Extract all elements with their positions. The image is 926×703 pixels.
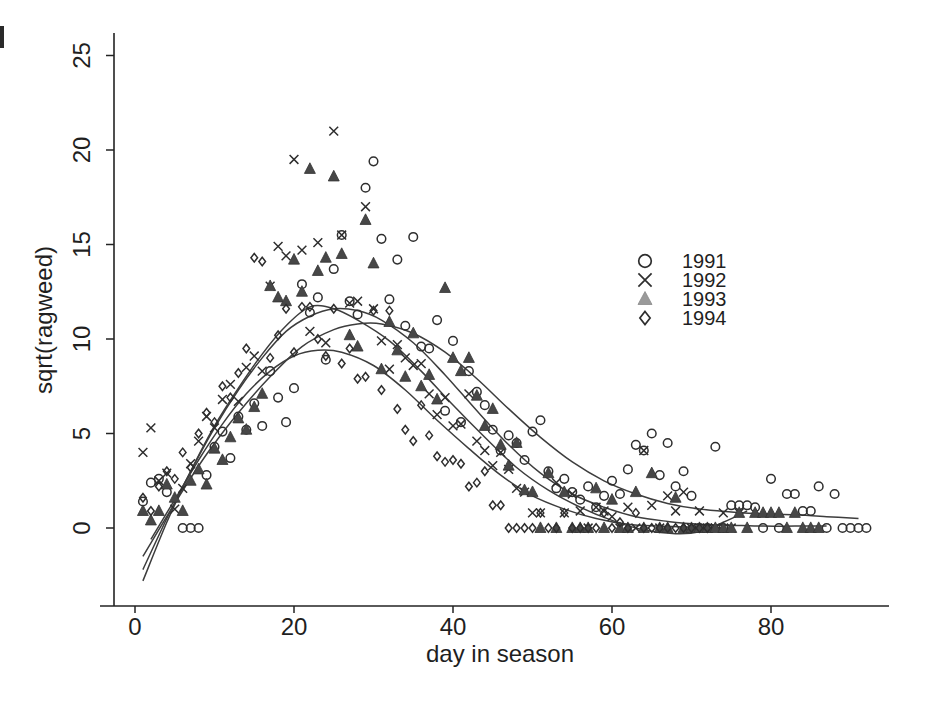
data-point-1994 [235, 369, 242, 378]
data-point-1994 [259, 257, 266, 266]
data-point-1991 [361, 184, 370, 193]
data-point-1993 [479, 420, 490, 431]
chart-canvas: 0204060800510152025day in seasonsqrt(rag… [0, 0, 926, 703]
data-point-1994 [251, 253, 258, 262]
data-point-1992 [313, 238, 322, 247]
data-point-1992 [639, 446, 648, 455]
data-point-1991 [282, 418, 291, 427]
data-point-1992 [321, 338, 330, 347]
data-point-1992 [147, 423, 156, 432]
data-point-1993 [352, 340, 363, 351]
data-point-1991 [528, 427, 537, 436]
data-point-1991 [671, 482, 680, 491]
data-point-1992 [329, 127, 338, 136]
data-point-1992 [679, 488, 688, 497]
data-point-1991 [369, 157, 378, 166]
data-point-1992 [306, 327, 315, 336]
data-point-1992 [250, 352, 259, 361]
y-tick-label: 10 [68, 326, 95, 353]
data-point-1994 [529, 524, 536, 533]
data-point-1991 [663, 439, 672, 448]
data-point-1992 [274, 242, 283, 251]
data-point-1992 [433, 410, 442, 419]
data-point-1994 [505, 524, 512, 533]
ragweed-scatter-figure: 0204060800510152025day in seasonsqrt(rag… [0, 0, 926, 703]
data-point-1992 [671, 507, 680, 516]
x-tick-label: 20 [281, 613, 308, 640]
data-point-1994 [410, 437, 417, 446]
data-point-1991 [425, 344, 434, 353]
data-point-1993 [400, 371, 411, 382]
data-point-1991 [814, 482, 823, 491]
y-tick-label: 25 [68, 42, 95, 69]
data-point-1994 [672, 524, 679, 533]
data-point-1992 [298, 246, 307, 255]
data-point-1991 [457, 418, 466, 427]
data-point-1994 [219, 382, 226, 391]
data-point-1993 [424, 369, 435, 380]
data-point-1991 [409, 233, 418, 242]
data-point-1994 [402, 425, 409, 434]
fit-curve-1992 [143, 306, 747, 581]
data-point-1994 [458, 459, 465, 468]
data-point-1993 [535, 522, 546, 533]
data-point-1991 [433, 316, 442, 325]
data-point-1994 [481, 467, 488, 476]
data-point-1993 [201, 478, 212, 489]
data-point-1994 [545, 524, 552, 533]
data-point-1993 [416, 380, 427, 391]
data-point-1992 [139, 448, 148, 457]
data-point-1992 [377, 336, 386, 345]
legend-open-diamond-icon [640, 311, 650, 324]
data-point-1994 [171, 475, 178, 484]
data-point-1991 [274, 393, 283, 402]
data-point-1991 [767, 475, 776, 484]
data-point-1994 [267, 354, 274, 363]
data-point-1992 [719, 508, 728, 517]
data-point-1994 [195, 429, 202, 438]
data-point-1994 [354, 374, 361, 383]
data-point-1991 [314, 293, 323, 302]
data-point-1993 [742, 522, 753, 533]
data-point-1993 [408, 327, 419, 338]
data-point-1992 [695, 507, 704, 516]
data-point-1992 [290, 155, 299, 164]
x-axis-title: day in season [426, 640, 574, 667]
data-point-1994 [466, 482, 473, 491]
data-point-1994 [386, 306, 393, 315]
data-point-1991 [560, 475, 569, 484]
data-point-1991 [258, 422, 267, 431]
legend-open-circle-icon [639, 255, 652, 268]
data-point-1991 [329, 265, 338, 274]
data-point-1994 [394, 405, 401, 414]
data-point-1991 [345, 297, 354, 306]
data-point-1991 [679, 467, 688, 476]
legend-filled-triangle-icon [638, 292, 652, 305]
data-point-1991 [624, 465, 633, 474]
data-point-1994 [593, 524, 600, 533]
legend-label-1994: 1994 [682, 307, 727, 329]
x-tick-label: 40 [440, 613, 467, 640]
data-point-1992 [441, 393, 450, 402]
x-tick-label: 0 [128, 613, 141, 640]
data-point-1992 [480, 446, 489, 455]
data-point-1993 [360, 214, 371, 225]
data-point-1994 [338, 359, 345, 368]
data-point-1992 [282, 251, 291, 260]
x-tick-label: 60 [599, 613, 626, 640]
data-point-1992 [361, 202, 370, 211]
data-point-1991 [536, 416, 545, 425]
data-point-1994 [450, 456, 457, 465]
data-point-1991 [441, 407, 450, 416]
data-point-1992 [624, 503, 633, 512]
data-point-1993 [440, 282, 451, 293]
data-point-1993 [432, 393, 443, 404]
data-point-1993 [448, 352, 459, 363]
data-point-1991 [759, 524, 768, 533]
data-point-1992 [226, 380, 235, 389]
data-point-1993 [289, 253, 300, 264]
data-point-1993 [320, 252, 331, 263]
data-point-1994 [243, 344, 250, 353]
data-point-1993 [384, 316, 395, 327]
data-point-1991 [584, 482, 593, 491]
